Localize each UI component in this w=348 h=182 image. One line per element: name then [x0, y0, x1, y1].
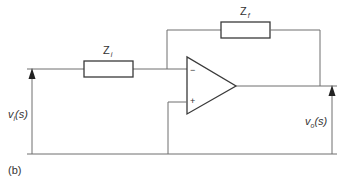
output-voltage-arrowhead-icon — [329, 85, 336, 96]
output-voltage-label: vo(s) — [305, 115, 328, 129]
inverting-amplifier-diagram: Zi Zf − + vi(s) vo(s) (b) — [0, 0, 348, 182]
feedback-impedance-resistor — [221, 22, 270, 38]
figure-caption: (b) — [8, 164, 21, 176]
input-voltage-arrowhead-icon — [29, 68, 36, 79]
feedback-impedance-label: Zf — [240, 5, 251, 19]
opamp-noninverting-sign: + — [190, 96, 195, 106]
input-impedance-label: Zi — [103, 44, 113, 58]
input-voltage-label: vi(s) — [8, 108, 28, 122]
input-impedance-resistor — [84, 61, 133, 77]
opamp-inverting-sign: − — [190, 65, 195, 75]
